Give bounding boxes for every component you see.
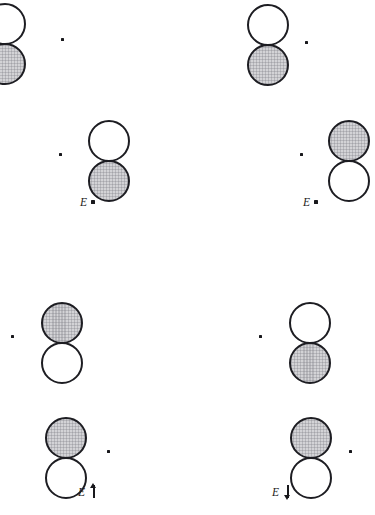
sphere-shaded-bottom [247,44,289,86]
charge-dot [59,153,62,156]
field-direction-dot-icon [314,200,317,203]
sphere-shaded-top [41,302,83,344]
sphere-pair-figure: E E [0,0,375,515]
field-label-middle-right: E [303,196,318,208]
sphere-unshaded-top [88,120,130,162]
field-label-middle-left: E [80,196,95,208]
sphere-unshaded-top [247,4,289,46]
charge-dot [349,450,352,453]
sphere-unshaded-bottom [41,342,83,384]
charge-dot [259,335,262,338]
charge-dot [11,335,14,338]
field-label-bottom-right: E [272,483,292,500]
sphere-unshaded-bottom [328,160,370,202]
sphere-shaded-top [45,417,87,459]
sphere-unshaded-bottom [290,457,332,499]
field-label-bottom-left: E [78,483,98,500]
charge-dot [107,450,110,453]
field-direction-dot-icon [91,200,94,203]
field-symbol-E: E [303,196,310,208]
sphere-shaded-top [290,417,332,459]
charge-dot [300,153,303,156]
field-symbol-E: E [272,486,279,498]
sphere-unshaded-top [0,3,26,45]
sphere-shaded-top [328,120,370,162]
charge-dot [305,41,308,44]
sphere-unshaded-top [289,302,331,344]
arrow-up-icon [89,483,98,500]
field-symbol-E: E [80,196,87,208]
field-symbol-E: E [78,486,85,498]
sphere-shaded-bottom [0,43,26,85]
arrow-down-icon [283,483,292,500]
sphere-shaded-bottom [289,342,331,384]
charge-dot [61,38,64,41]
